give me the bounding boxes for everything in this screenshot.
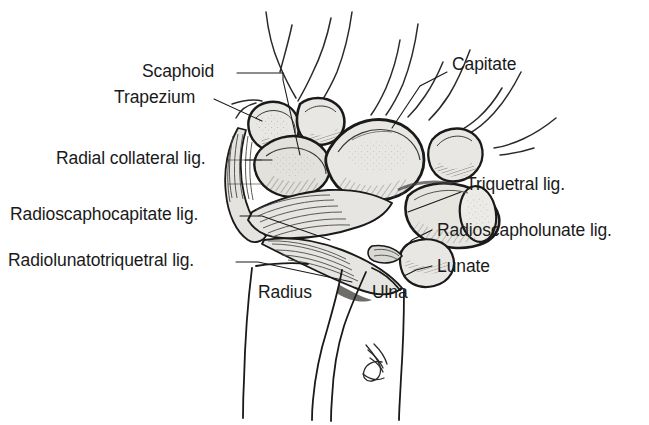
leader-capitate <box>392 72 447 128</box>
label-scaphoid: Scaphoid <box>142 63 214 81</box>
label-radial-collateral-lig: Radial collateral lig. <box>56 150 206 168</box>
label-triquetral-lig: Triquetral lig. <box>466 176 565 194</box>
bone-scaphoid <box>254 136 330 197</box>
vascular-detail <box>363 344 387 381</box>
label-trapezium: Trapezium <box>114 89 195 107</box>
label-ulna: Ulna <box>372 284 408 302</box>
label-radioscaphocapitate-lig: Radioscaphocapitate lig. <box>10 206 198 224</box>
ligament-radioscaphocapitate <box>248 190 392 238</box>
label-capitate: Capitate <box>452 56 516 74</box>
label-radiolunatotriquetral-lig: Radiolunatotriquetral lig. <box>8 252 194 270</box>
label-lunate: Lunate <box>437 258 490 276</box>
label-radius: Radius <box>258 284 312 302</box>
ligament-radioscapholunate <box>368 245 402 263</box>
anatomical-figure: Scaphoid Trapezium Radial collateral lig… <box>0 0 649 425</box>
label-radioscapholunate-lig: Radioscapholunate lig. <box>437 222 612 240</box>
